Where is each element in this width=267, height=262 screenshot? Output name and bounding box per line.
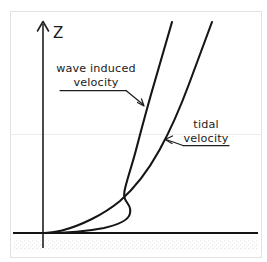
sea-bed-stipple-fade (13, 234, 258, 254)
tidal-velocity-curve (44, 22, 212, 233)
wave-label-line-2: velocity (74, 76, 119, 89)
wave-leader-line (126, 91, 143, 105)
figure-canvas: Z wave induced velocity tidal velocity (0, 0, 267, 262)
sea-bed (13, 233, 258, 254)
velocity-profile-figure: Z wave induced velocity tidal velocity (0, 0, 267, 262)
tidal-label-line-1: tidal (193, 118, 218, 131)
z-axis-label: Z (53, 24, 63, 42)
wave-induced-velocity-annotation (60, 91, 144, 107)
wave-label-line-1: wave induced (56, 62, 135, 75)
tidal-label-line-2: velocity (184, 132, 229, 145)
wave-induced-velocity-curve (44, 22, 172, 233)
tidal-leader-line (166, 140, 183, 146)
